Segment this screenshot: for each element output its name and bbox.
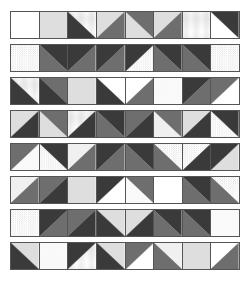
quilt-block (97, 243, 126, 269)
quilt-block (11, 177, 40, 203)
quilt-block (68, 111, 97, 137)
quilt-block (154, 243, 183, 269)
quilt-block (154, 12, 183, 38)
quilt-block (11, 210, 40, 236)
quilt-block (68, 45, 97, 71)
quilt-row (10, 209, 240, 237)
quilt-block (211, 243, 239, 269)
quilt-block (97, 78, 126, 104)
quilt-block (68, 177, 97, 203)
quilt-block (40, 210, 69, 236)
quilt-block (154, 78, 183, 104)
quilt-block (211, 144, 239, 170)
quilt-block (154, 177, 183, 203)
quilt-block (68, 210, 97, 236)
quilt-block (211, 210, 239, 236)
quilt-block (68, 243, 97, 269)
quilt-block (183, 45, 212, 71)
quilt-block (183, 78, 212, 104)
quilt-block (126, 210, 155, 236)
quilt-block (97, 210, 126, 236)
quilt-block (11, 78, 40, 104)
quilt-block (11, 12, 40, 38)
quilt-block (40, 12, 69, 38)
quilt-row (10, 44, 240, 72)
quilt-block (126, 12, 155, 38)
quilt-block (211, 111, 239, 137)
quilt-block (126, 177, 155, 203)
quilt-block (68, 78, 97, 104)
quilt-block (183, 243, 212, 269)
quilt-row (10, 77, 240, 105)
quilt-block (211, 177, 239, 203)
quilt-block (183, 111, 212, 137)
quilt-block (126, 111, 155, 137)
quilt-block (154, 111, 183, 137)
quilt-block (154, 210, 183, 236)
quilt-block (126, 78, 155, 104)
quilt-block (183, 12, 212, 38)
quilt-block (126, 243, 155, 269)
quilt-block (68, 144, 97, 170)
quilt-row (10, 242, 240, 270)
quilt-block (97, 177, 126, 203)
quilt-block (97, 45, 126, 71)
quilt-block (211, 45, 239, 71)
quilt-block (211, 12, 239, 38)
quilt-block (11, 111, 40, 137)
quilt-block (40, 177, 69, 203)
quilt-block (11, 45, 40, 71)
quilt-block (154, 45, 183, 71)
quilt-row (10, 176, 240, 204)
quilt-row (10, 11, 240, 39)
quilt-block (154, 144, 183, 170)
quilt-block (97, 144, 126, 170)
quilt-block (40, 45, 69, 71)
quilt-block (40, 243, 69, 269)
quilt-block (40, 144, 69, 170)
quilt-block (183, 177, 212, 203)
quilt (10, 11, 240, 275)
quilt-block (97, 111, 126, 137)
quilt-block (183, 144, 212, 170)
quilt-row (10, 143, 240, 171)
quilt-block (40, 111, 69, 137)
quilt-block (183, 210, 212, 236)
quilt-block (68, 12, 97, 38)
quilt-block (126, 144, 155, 170)
quilt-block (11, 144, 40, 170)
quilt-block (126, 45, 155, 71)
quilt-row (10, 110, 240, 138)
quilt-block (211, 78, 239, 104)
quilt-block (11, 243, 40, 269)
quilt-block (97, 12, 126, 38)
quilt-block (40, 78, 69, 104)
